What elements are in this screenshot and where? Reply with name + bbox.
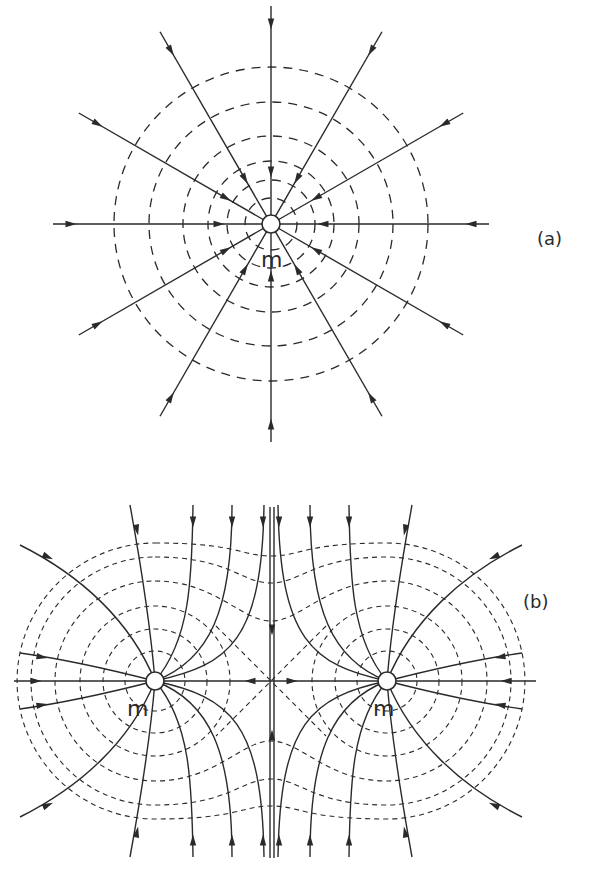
arrow-icon <box>311 247 322 255</box>
arrow-icon <box>245 678 256 684</box>
arrow-icon <box>190 835 196 846</box>
arrow-icon <box>165 44 173 55</box>
field-line <box>20 545 155 681</box>
arrow-icon <box>294 264 302 275</box>
arrow-icon <box>466 221 477 227</box>
arrow-icon <box>229 517 235 528</box>
label-b: (b) <box>523 591 548 612</box>
gravitational-field-diagram: m (a) m m (b) <box>0 0 589 878</box>
arrow-icon <box>165 392 173 403</box>
arrow-icon <box>260 835 266 846</box>
arrow-icon <box>214 221 225 227</box>
arrow-icon <box>91 118 102 126</box>
mass-point-b-right <box>378 672 396 690</box>
arrow-icon <box>268 167 274 178</box>
arrow-icon <box>268 19 274 30</box>
mass-label-b-left: m <box>127 696 148 721</box>
arrow-icon <box>239 264 247 275</box>
field-line <box>279 229 463 336</box>
arrow-icon <box>268 419 274 430</box>
arrow-icon <box>36 653 47 659</box>
arrow-icon <box>346 517 352 528</box>
mass-point-a <box>262 215 280 233</box>
arrow-icon <box>318 221 329 227</box>
arrow-icon <box>501 678 512 684</box>
mass-label-a: m <box>261 247 282 272</box>
arrow-icon <box>66 221 77 227</box>
arrow-icon <box>307 517 313 528</box>
arrow-icon <box>268 271 274 282</box>
field-line <box>279 113 463 220</box>
arrow-icon <box>311 192 322 200</box>
arrow-icon <box>346 835 352 846</box>
arrow-icon <box>368 44 376 55</box>
field-line <box>349 505 387 681</box>
field-line <box>160 32 267 216</box>
field-line <box>387 681 522 817</box>
arrow-icon <box>31 678 42 684</box>
arrow-icon <box>439 321 450 329</box>
arrow-icon <box>260 517 266 528</box>
arrow-icon <box>287 678 298 684</box>
field-line <box>276 32 383 216</box>
label-a: (a) <box>537 228 562 249</box>
field-line <box>276 232 383 416</box>
arrow-icon <box>190 517 196 528</box>
field-line <box>79 229 263 336</box>
field-line <box>155 681 193 857</box>
arrow-icon <box>294 173 302 184</box>
arrow-icon <box>220 192 231 200</box>
arrow-icon <box>368 392 376 403</box>
field-line <box>79 113 263 220</box>
diagram-a-single-mass: m (a) <box>53 6 562 442</box>
field-line <box>387 545 522 681</box>
arrow-icon <box>91 321 102 329</box>
arrow-icon <box>495 703 506 709</box>
arrow-icon <box>307 835 313 846</box>
arrow-icon <box>220 247 231 255</box>
field-line <box>160 232 267 416</box>
arrow-icon <box>439 118 450 126</box>
arrow-icon <box>276 835 282 846</box>
arrow-icon <box>276 517 282 528</box>
arrow-icon <box>239 173 247 184</box>
arrow-icon <box>495 653 506 659</box>
mass-label-b-right: m <box>373 696 394 721</box>
arrow-icon <box>36 703 47 709</box>
arrow-icon <box>229 835 235 846</box>
field-line <box>155 505 193 681</box>
diagram-b-two-masses: m m (b) <box>14 505 548 858</box>
mass-point-b-left <box>146 672 164 690</box>
